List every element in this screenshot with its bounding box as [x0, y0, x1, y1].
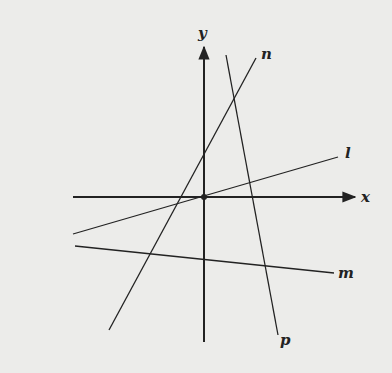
line-n-label: n [261, 45, 272, 63]
coordinate-diagram: x y lmnp [0, 0, 392, 373]
line-p [226, 55, 278, 335]
line-l-label: l [345, 144, 351, 162]
y-axis-label: y [197, 24, 208, 42]
line-m-label: m [338, 264, 354, 282]
line-l [73, 157, 338, 234]
x-axis-label: x [360, 188, 371, 206]
line-p-label: p [280, 331, 291, 349]
